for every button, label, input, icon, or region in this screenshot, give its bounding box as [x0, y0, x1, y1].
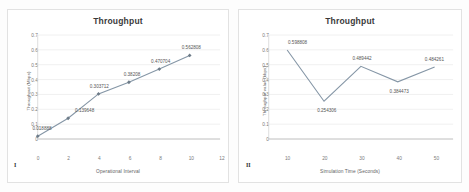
data-point-label: 0.598808	[288, 40, 307, 45]
figure-caption-two: II	[246, 162, 251, 168]
chart-title-two: Throughput	[239, 16, 461, 27]
data-point-label: 0.489442	[352, 56, 371, 61]
figure-page: Throughput Throughput (Mbps) 00.10.20.30…	[0, 0, 469, 192]
data-point-label: 0.562808	[182, 45, 201, 50]
x-tick-label: 40	[397, 156, 402, 161]
x-tick-label: 10	[285, 156, 290, 161]
data-point-label: 0.484261	[425, 57, 444, 62]
chart-title-one: Throughput	[8, 16, 228, 27]
plot-area-one: Throughput (Mbps) 00.10.20.30.40.50.60.7…	[8, 27, 228, 155]
x-tick-label: 30	[359, 156, 364, 161]
x-axis-ticks-two: 1020304050	[239, 155, 461, 167]
data-point-label: 0.139648	[75, 108, 94, 113]
x-axis-label-one: Operational Interval	[8, 167, 228, 177]
data-point-label: 0.018888	[32, 126, 51, 131]
figure-panel-two: Throughput Throughput value (kbps) 00.10…	[238, 9, 462, 183]
x-tick-label: 50	[434, 156, 439, 161]
data-point-label: 0.384473	[390, 88, 409, 93]
x-tick-label: 4	[98, 156, 101, 161]
x-tick-label: 20	[322, 156, 327, 161]
figure-caption-one: I	[14, 162, 16, 168]
data-point-label: 0.303712	[90, 83, 109, 88]
chart-canvas-two	[239, 27, 461, 155]
x-tick-label: 8	[159, 156, 162, 161]
x-tick-label: 0	[37, 156, 40, 161]
x-axis-ticks-one: 024681012	[8, 155, 228, 167]
data-point-label: 0.38208	[124, 72, 141, 77]
data-point-label: 0.254306	[317, 108, 336, 113]
data-point-label: 0.470704	[151, 59, 170, 64]
x-axis-label-two: Simulation Time (Seconds)	[239, 167, 461, 177]
plot-area-two: Throughput value (kbps) 00.10.20.30.40.5…	[239, 27, 461, 155]
x-tick-label: 6	[129, 156, 132, 161]
x-tick-label: 10	[189, 156, 194, 161]
x-tick-label: 12	[219, 156, 224, 161]
figure-panel-one: Throughput Throughput (Mbps) 00.10.20.30…	[7, 9, 229, 183]
x-tick-label: 2	[67, 156, 70, 161]
